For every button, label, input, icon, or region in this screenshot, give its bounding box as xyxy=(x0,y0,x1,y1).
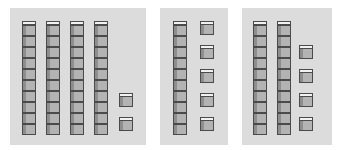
rod-cube xyxy=(70,36,84,47)
unit-cube xyxy=(200,117,214,131)
rod-cube xyxy=(277,80,291,91)
rod-cube xyxy=(46,58,60,69)
unit-cube xyxy=(299,117,313,131)
rod-cube xyxy=(253,102,267,113)
rod-cube xyxy=(70,102,84,113)
rod-cube xyxy=(46,102,60,113)
tens-rod xyxy=(94,21,108,136)
rod-cube xyxy=(22,47,36,58)
unit-cube xyxy=(299,69,313,83)
rod-cube xyxy=(70,47,84,58)
rod-cube xyxy=(22,36,36,47)
rod-cube xyxy=(94,36,108,47)
rod-cube xyxy=(94,124,108,135)
rod-cube xyxy=(22,25,36,36)
rod-cube xyxy=(253,25,267,36)
rod-cube xyxy=(70,113,84,124)
rod-cube xyxy=(46,47,60,58)
tens-rod xyxy=(277,21,291,136)
unit-cube xyxy=(119,93,133,107)
rod-cube xyxy=(70,69,84,80)
rod-cube xyxy=(94,58,108,69)
rod-cube xyxy=(173,91,187,102)
rod-cube xyxy=(22,124,36,135)
rod-cube xyxy=(173,58,187,69)
rod-cube xyxy=(277,124,291,135)
rod-cube xyxy=(46,36,60,47)
rod-cube xyxy=(173,25,187,36)
rod-cube xyxy=(46,113,60,124)
tens-rod xyxy=(22,21,36,136)
rod-cube xyxy=(94,25,108,36)
rod-cube xyxy=(46,80,60,91)
rod-cube xyxy=(94,69,108,80)
tens-rod xyxy=(70,21,84,136)
rod-cube xyxy=(253,69,267,80)
rod-cube xyxy=(70,58,84,69)
unit-cube xyxy=(200,69,214,83)
rod-cube xyxy=(173,113,187,124)
rod-cube xyxy=(46,69,60,80)
rod-cube xyxy=(94,80,108,91)
rod-cube xyxy=(22,102,36,113)
rod-cube xyxy=(46,124,60,135)
rod-cube xyxy=(277,25,291,36)
rod-cube xyxy=(277,102,291,113)
rod-cube xyxy=(277,91,291,102)
rod-cube xyxy=(94,91,108,102)
rod-cube xyxy=(70,80,84,91)
unit-cube xyxy=(299,93,313,107)
unit-cube xyxy=(299,45,313,59)
rod-cube xyxy=(253,124,267,135)
rod-cube xyxy=(70,25,84,36)
tens-rod xyxy=(46,21,60,136)
rod-cube xyxy=(70,91,84,102)
rod-cube xyxy=(46,25,60,36)
panel-2 xyxy=(160,8,228,145)
rod-cube xyxy=(22,69,36,80)
rod-cube xyxy=(253,80,267,91)
rod-cube xyxy=(277,113,291,124)
rod-cube xyxy=(22,113,36,124)
unit-cube xyxy=(200,93,214,107)
rod-cube xyxy=(70,124,84,135)
rod-cube xyxy=(22,80,36,91)
rod-cube xyxy=(253,58,267,69)
tens-rod xyxy=(173,21,187,136)
rod-cube xyxy=(173,47,187,58)
rod-cube xyxy=(277,69,291,80)
rod-cube xyxy=(22,58,36,69)
unit-cube xyxy=(200,45,214,59)
rod-cube xyxy=(173,36,187,47)
rod-cube xyxy=(94,47,108,58)
rod-cube xyxy=(277,47,291,58)
rod-cube xyxy=(22,91,36,102)
rod-cube xyxy=(173,69,187,80)
rod-cube xyxy=(277,58,291,69)
rod-cube xyxy=(46,91,60,102)
rod-cube xyxy=(253,47,267,58)
rod-cube xyxy=(277,36,291,47)
unit-cube xyxy=(119,117,133,131)
rod-cube xyxy=(94,102,108,113)
rod-cube xyxy=(173,80,187,91)
rod-cube xyxy=(173,124,187,135)
rod-cube xyxy=(253,113,267,124)
rod-cube xyxy=(173,102,187,113)
tens-rod xyxy=(253,21,267,136)
rod-cube xyxy=(94,113,108,124)
unit-cube xyxy=(200,21,214,35)
rod-cube xyxy=(253,91,267,102)
rod-cube xyxy=(253,36,267,47)
